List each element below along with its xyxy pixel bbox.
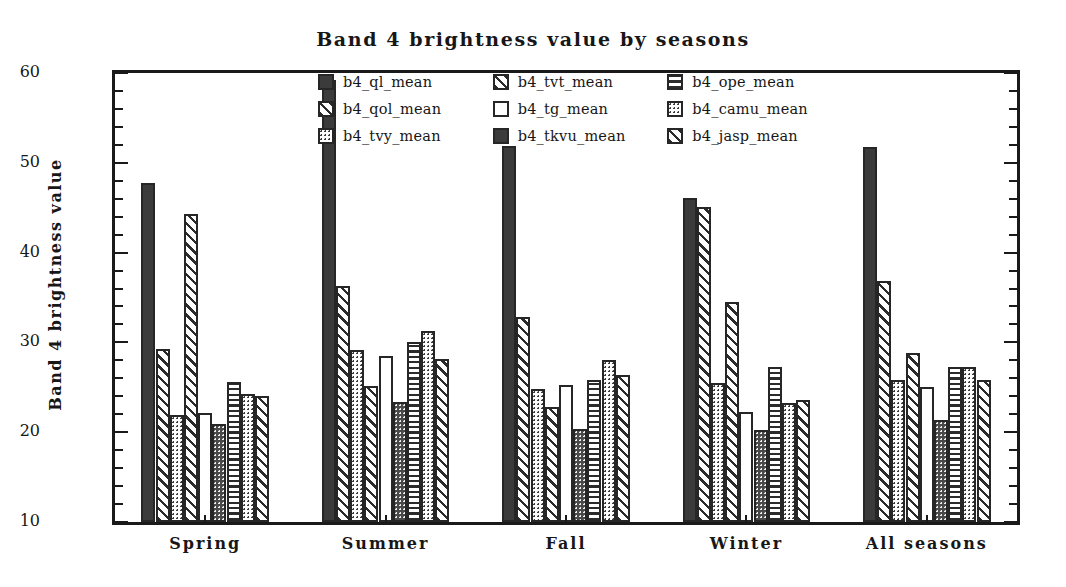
y-axis-tick-label: 20 [0, 421, 40, 440]
y-axis-minor-tick [115, 198, 123, 200]
y-axis-major-tick [115, 252, 128, 254]
x-axis-tick-label-all-seasons: All seasons [837, 534, 1017, 553]
y-axis-minor-tick [115, 144, 123, 146]
x-axis-tick [385, 515, 387, 522]
legend-item-b4_tg_mean: b4_tg_mean [493, 95, 664, 122]
y-axis-minor-tick-right [1009, 413, 1017, 415]
bar-b4_qol_mean-all-seasons [877, 281, 891, 522]
y-axis-major-tick [115, 162, 128, 164]
y-axis-minor-tick [115, 270, 123, 272]
y-axis-minor-tick [115, 503, 123, 505]
y-axis-minor-tick [115, 449, 123, 451]
y-axis-major-tick-right [1004, 431, 1017, 433]
bar-b4_tvt_mean-all-seasons [906, 353, 920, 522]
bar-b4_tvt_mean-summer [364, 386, 378, 522]
y-axis-minor-tick [115, 359, 123, 361]
y-axis-major-tick-right [1004, 252, 1017, 254]
y-axis-tick-label: 60 [0, 62, 40, 81]
x-axis-tick-label-winter: Winter [656, 534, 836, 553]
bar-b4_tkvu_mean-all-seasons [934, 420, 948, 522]
y-axis-minor-tick-right [1009, 305, 1017, 307]
y-axis-minor-tick-right [1009, 90, 1017, 92]
y-axis-minor-tick [115, 108, 123, 110]
bar-b4_qol_mean-spring [156, 349, 170, 522]
bar-b4_tkvu_mean-winter [754, 430, 768, 522]
bar-b4_tvt_mean-winter [725, 302, 739, 522]
y-axis-major-tick-right [1004, 162, 1017, 164]
bar-b4_tvy_mean-summer [350, 350, 364, 522]
bar-b4_jasp_mean-summer [435, 359, 449, 522]
y-axis-minor-tick [115, 305, 123, 307]
bar-b4_jasp_mean-all-seasons [977, 380, 991, 522]
y-axis-major-tick-right [1004, 341, 1017, 343]
y-axis-minor-tick-right [1009, 234, 1017, 236]
bar-b4_tg_mean-summer [379, 356, 393, 522]
bar-b4_jasp_mean-fall [616, 375, 630, 522]
y-axis-minor-tick-right [1009, 288, 1017, 290]
x-axis-tick [926, 515, 928, 522]
bar-b4_jasp_mean-winter [796, 400, 810, 522]
x-axis-tick [745, 515, 747, 522]
bar-b4_tg_mean-winter [739, 412, 753, 522]
y-axis-minor-tick-right [1009, 216, 1017, 218]
y-axis-minor-tick-right [1009, 108, 1017, 110]
legend-swatch-icon [493, 128, 509, 144]
y-axis-minor-tick [115, 377, 123, 379]
y-axis-minor-tick-right [1009, 395, 1017, 397]
legend-item-b4_camu_mean: b4_camu_mean [667, 95, 838, 122]
bar-b4_camu_mean-summer [421, 331, 435, 522]
x-axis-tick-label-fall: Fall [476, 534, 656, 553]
bar-b4_ql_mean-all-seasons [863, 147, 877, 522]
bar-b4_ql_mean-fall [502, 146, 516, 522]
y-axis-minor-tick-right [1009, 323, 1017, 325]
legend-item-b4_tvy_mean: b4_tvy_mean [318, 122, 489, 149]
y-axis-minor-tick-right [1009, 485, 1017, 487]
legend-swatch-icon [667, 74, 683, 90]
legend-label: b4_ql_mean [343, 74, 432, 90]
legend-swatch-icon [667, 128, 683, 144]
legend-label: b4_camu_mean [692, 101, 808, 117]
x-axis-tick-label-spring: Spring [115, 534, 295, 553]
bar-b4_qol_mean-winter [697, 207, 711, 522]
legend-swatch-icon [493, 101, 509, 117]
bar-b4_tvy_mean-spring [170, 415, 184, 522]
y-axis-minor-tick [115, 126, 123, 128]
bar-b4_tkvu_mean-spring [212, 424, 226, 522]
y-axis-major-tick [115, 431, 128, 433]
bar-b4_tvt_mean-spring [184, 214, 198, 522]
legend-swatch-icon [318, 101, 334, 117]
bar-b4_camu_mean-all-seasons [962, 367, 976, 522]
y-axis-minor-tick-right [1009, 198, 1017, 200]
y-axis-minor-tick [115, 90, 123, 92]
y-axis-minor-tick-right [1009, 503, 1017, 505]
bar-b4_ope_mean-winter [768, 367, 782, 522]
y-axis-minor-tick [115, 216, 123, 218]
bar-b4_camu_mean-fall [602, 360, 616, 522]
y-axis-major-tick [115, 72, 128, 74]
bar-b4_tkvu_mean-fall [573, 429, 587, 522]
y-axis-minor-tick [115, 395, 123, 397]
y-axis-major-tick-right [1004, 72, 1017, 74]
bar-b4_camu_mean-spring [241, 394, 255, 522]
y-axis-tick-label: 50 [0, 152, 40, 171]
y-axis-tick-label: 40 [0, 242, 40, 261]
bar-b4_ql_mean-spring [141, 183, 155, 522]
y-axis-minor-tick-right [1009, 144, 1017, 146]
legend-item-b4_tkvu_mean: b4_tkvu_mean [493, 122, 664, 149]
y-axis-minor-tick-right [1009, 449, 1017, 451]
legend-item-b4_jasp_mean: b4_jasp_mean [667, 122, 838, 149]
y-axis-minor-tick-right [1009, 359, 1017, 361]
y-axis-label: Band 4 brightness value [46, 70, 65, 500]
legend-item-b4_qol_mean: b4_qol_mean [318, 95, 489, 122]
chart-figure: Band 4 brightness value by seasons Band … [0, 0, 1066, 587]
legend-swatch-icon [318, 74, 334, 90]
y-axis-minor-tick [115, 485, 123, 487]
legend-item-b4_tvt_mean: b4_tvt_mean [493, 68, 664, 95]
bar-b4_tkvu_mean-summer [393, 402, 407, 522]
y-axis-major-tick-right [1004, 521, 1017, 523]
bar-b4_ope_mean-summer [407, 342, 421, 522]
bar-b4_tvy_mean-fall [531, 389, 545, 522]
bar-b4_qol_mean-fall [516, 317, 530, 522]
bar-b4_tg_mean-spring [198, 413, 212, 522]
x-axis-tick [204, 515, 206, 522]
